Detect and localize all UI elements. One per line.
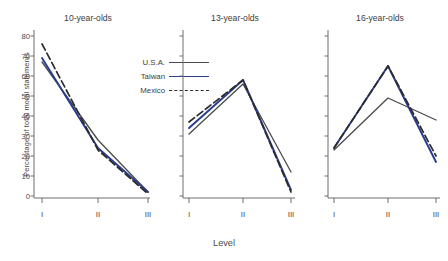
x-tick-label: I: [333, 210, 335, 219]
plot-area: IIIIII: [173, 28, 297, 219]
panel-title: 10-year-olds: [24, 13, 152, 23]
panel-title: 13-year-olds: [173, 13, 297, 23]
x-tick-label: III: [433, 210, 440, 219]
plot-svg: [318, 28, 442, 219]
y-tick-label: 80: [22, 32, 30, 41]
y-tick-label: 50: [22, 92, 30, 101]
x-tick-label: III: [145, 210, 152, 219]
y-tick-label: 60: [22, 72, 30, 81]
panel-16-year-olds: 16-year-olds IIIIII: [318, 14, 442, 219]
y-tick-label: 30: [22, 132, 30, 141]
x-tick-label: I: [41, 210, 43, 219]
x-axis-title: Level: [0, 238, 448, 248]
x-tick-label: III: [288, 210, 295, 219]
legend-label-taiwan: Taiwan: [141, 72, 165, 81]
figure: Percentage of total moral statements Lev…: [0, 0, 448, 261]
panel-10-year-olds: 10-year-olds 01020304050607080IIIIII U.S…: [24, 14, 152, 219]
x-tick-label: II: [96, 210, 100, 219]
x-tick-label: I: [188, 210, 190, 219]
y-tick-label: 20: [22, 152, 30, 161]
legend-label-usa: U.S.A.: [142, 58, 165, 67]
y-tick-label: 40: [22, 112, 30, 121]
plot-area: IIIIII: [318, 28, 442, 219]
x-tick-label: II: [241, 210, 245, 219]
panel-title: 16-year-olds: [318, 13, 442, 23]
y-tick-label: 0: [26, 192, 30, 201]
panel-13-year-olds: 13-year-olds IIIIII: [173, 14, 297, 219]
y-tick-label: 10: [22, 172, 30, 181]
plot-svg: [173, 28, 297, 219]
x-tick-label: II: [386, 210, 390, 219]
y-tick-label: 70: [22, 52, 30, 61]
legend-label-mexico: Mexico: [140, 86, 165, 95]
